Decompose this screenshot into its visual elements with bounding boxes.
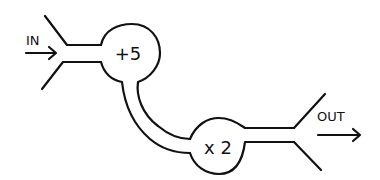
output-arrow-icon (318, 129, 360, 141)
input-label: IN (26, 33, 40, 48)
input-arrow-icon (26, 47, 56, 59)
output-funnel (294, 94, 325, 170)
add-node-label: +5 (115, 43, 142, 64)
multiply-node-label: x 2 (204, 137, 232, 158)
add-node: +5 (101, 24, 190, 153)
output-label: OUT (317, 109, 345, 124)
function-machine-diagram: +5 x 2 IN OUT (0, 0, 380, 180)
multiply-node: x 2 (190, 118, 294, 174)
